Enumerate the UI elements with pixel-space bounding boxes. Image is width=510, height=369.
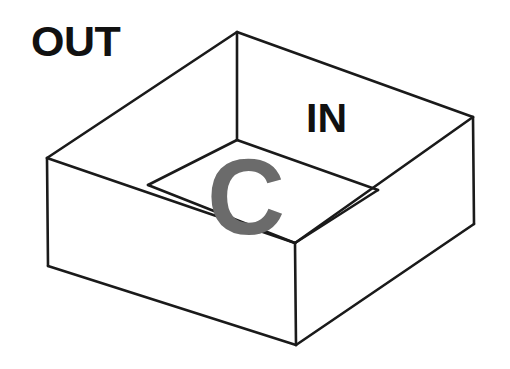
label-out: OUT <box>31 20 120 63</box>
edge-wall-left <box>47 158 48 266</box>
edge-wall-right <box>473 117 474 224</box>
label-in: IN <box>306 98 347 139</box>
figure-canvas: C OUT IN <box>0 0 510 369</box>
edge-wall-front <box>295 243 296 345</box>
watermark-letter-c: C <box>207 143 285 251</box>
